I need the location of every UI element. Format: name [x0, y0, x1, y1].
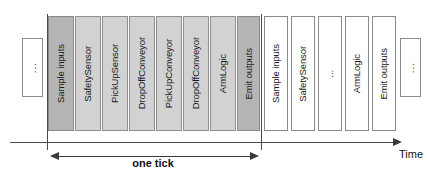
phase-box-armlogic[interactable]: ArmLogic — [210, 16, 236, 131]
phase-box-emit-outputs[interactable]: Emit outputs — [237, 16, 260, 131]
next-phase-box-ellipsis[interactable]: ... — [318, 16, 342, 131]
next-phase-box-safetysensor[interactable]: SafetySensor — [291, 16, 315, 131]
previous-tick-ellipsis-label: ... — [28, 62, 38, 73]
next-phase-box-armlogic[interactable]: ArmLogic — [345, 16, 369, 131]
phase-label: Emit outputs — [244, 48, 254, 100]
phase-box-dropoffconveyor-1[interactable]: DropOffConveyor — [129, 16, 155, 131]
following-tick-ellipsis-label: ... — [406, 62, 416, 73]
phase-box-sample-inputs[interactable]: Sample inputs — [48, 16, 74, 131]
phase-label: Sample inputs — [271, 44, 281, 103]
phase-label: ... — [325, 70, 335, 78]
tick-timing-diagram: ... Sample inputs SafetySensor PickUpSen… — [0, 0, 428, 171]
phase-box-safetysensor[interactable]: SafetySensor — [75, 16, 101, 131]
tick-span-arrowhead-right — [250, 152, 259, 160]
phase-box-pickupsensor[interactable]: PickUpSensor — [102, 16, 128, 131]
phase-label: ArmLogic — [218, 54, 228, 93]
next-phase-box-emit-outputs[interactable]: Emit outputs — [372, 16, 396, 131]
phase-box-pickupconveyor[interactable]: PickUpConveyor — [156, 16, 182, 131]
phase-label: DropOffConveyor — [137, 37, 147, 109]
phase-label: Sample inputs — [56, 44, 66, 103]
time-axis-label: Time — [399, 148, 423, 160]
phase-label: PickUpSensor — [110, 44, 120, 103]
following-tick-ellipsis-box: ... — [400, 38, 421, 97]
phase-label: ArmLogic — [352, 54, 362, 93]
time-axis-line — [10, 142, 395, 143]
phase-box-dropoffconveyor-2[interactable]: DropOffConveyor — [183, 16, 209, 131]
time-axis-arrowhead — [393, 138, 402, 146]
previous-tick-ellipsis-box: ... — [22, 38, 43, 97]
tick-span-label: one tick — [98, 157, 208, 169]
phase-label: Emit outputs — [379, 48, 389, 100]
phase-label: PickUpConveyor — [164, 39, 174, 108]
next-phase-box-sample-inputs[interactable]: Sample inputs — [264, 16, 288, 131]
phase-label: DropOffConveyor — [191, 37, 201, 109]
phase-label: SafetySensor — [83, 46, 93, 102]
tick-boundary-line-end — [261, 14, 262, 150]
phase-label: SafetySensor — [298, 46, 308, 102]
